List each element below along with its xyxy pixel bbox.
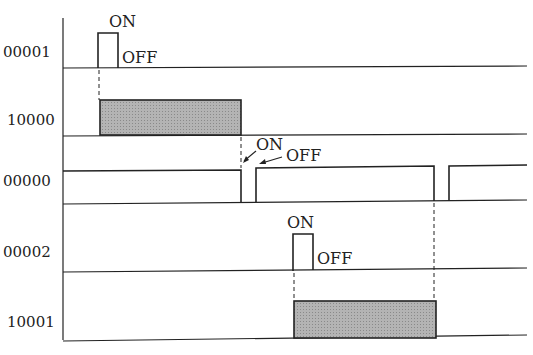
signal-row-00000: 00000 ON OFF [3,135,527,204]
signal-label: 00002 [3,243,51,261]
signal-label: 10001 [7,313,55,331]
off-label: OFF [122,48,157,67]
signal-label: 00000 [3,172,51,190]
on-label: ON [287,213,314,232]
signal-row-00001: 00001 ON OFF [3,12,527,68]
off-label: OFF [286,146,321,165]
signal-label: 10000 [7,111,55,129]
on-label: ON [256,135,283,154]
signal-row-00002: 00002 ON OFF [3,213,527,272]
timing-diagram: 00001 ON OFF 10000 00000 ON OFF 00002 ON [0,0,533,355]
signal-row-10001: 10001 [7,301,527,341]
on-label: ON [109,12,136,31]
off-label: OFF [317,249,352,268]
signal-label: 00001 [3,43,51,61]
signal-row-10000: 10000 [7,100,527,136]
